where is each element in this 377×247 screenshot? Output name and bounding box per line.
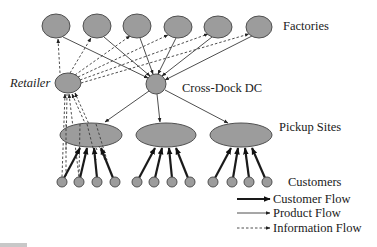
customers-label: Customers xyxy=(288,175,342,189)
customer-node xyxy=(227,177,237,187)
factories-label: Factories xyxy=(283,19,329,33)
customer-node xyxy=(132,177,142,187)
corner-artifact xyxy=(0,243,27,247)
legend-customer-flow-label: Customer Flow xyxy=(273,192,350,206)
customer-node xyxy=(149,177,159,187)
customer-node xyxy=(92,177,102,187)
factory-node xyxy=(83,14,111,38)
customer-node xyxy=(57,177,67,187)
customer-flow-to-pickup xyxy=(64,148,265,178)
pickup-site-node xyxy=(136,123,196,147)
customer-node xyxy=(262,177,272,187)
legend-information-flow-label: Information Flow xyxy=(273,221,362,235)
legend-product-flow-label: Product Flow xyxy=(273,206,341,220)
supply-chain-diagram: Factories Retailer Cross-Dock DC Pickup … xyxy=(0,0,377,247)
pickup-sites-label: Pickup Sites xyxy=(279,120,341,134)
customer-node xyxy=(185,177,195,187)
pickup-site-node xyxy=(210,123,272,147)
factory-nodes xyxy=(42,14,272,38)
customer-node xyxy=(167,177,177,187)
customer-nodes xyxy=(57,177,272,187)
cross-dock-label: Cross-Dock DC xyxy=(182,81,262,95)
retailer-label: Retailer xyxy=(9,76,50,90)
factory-node xyxy=(42,14,70,38)
retailer-node xyxy=(55,73,81,93)
pickup-site-node xyxy=(60,123,122,147)
customer-node xyxy=(208,177,218,187)
legend: Customer Flow Product Flow Information F… xyxy=(237,192,362,235)
factory-node xyxy=(164,16,192,38)
factory-node xyxy=(123,14,151,38)
factory-node xyxy=(246,16,272,38)
customer-node xyxy=(244,177,254,187)
product-flow-factory-to-dc xyxy=(63,36,252,80)
customer-node xyxy=(74,177,84,187)
factory-node xyxy=(204,16,232,38)
cross-dock-node xyxy=(146,74,166,94)
customer-node xyxy=(110,177,120,187)
